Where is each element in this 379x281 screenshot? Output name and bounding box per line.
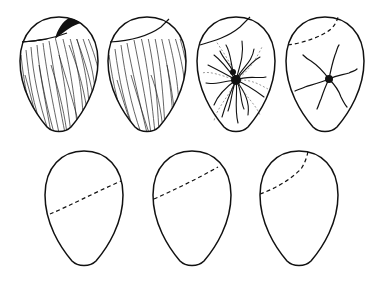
egg-6 [153,151,231,266]
egg-7 [260,151,338,266]
egg-4 [286,17,364,132]
egg-diagram [0,0,379,281]
egg-5 [45,151,123,266]
egg-1 [19,15,99,133]
egg-3 [197,17,275,132]
egg-2 [107,15,187,133]
